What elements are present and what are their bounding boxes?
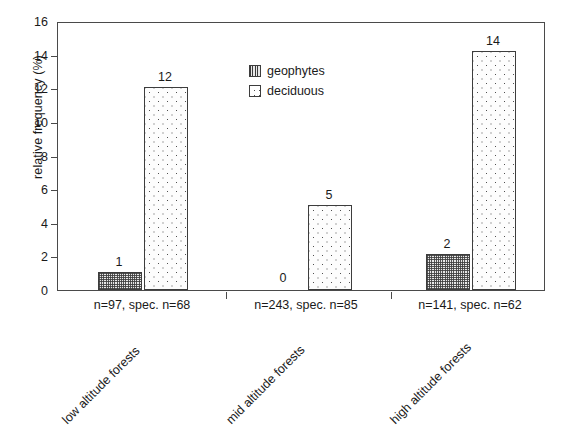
group-sample-size-label: n=141, spec. n=62 — [380, 299, 560, 312]
group-sample-size-label: n=97, spec. n=68 — [52, 299, 232, 312]
dotted-swatch-icon — [249, 85, 261, 97]
bar-value-label: 0 — [261, 272, 305, 285]
y-tick-label: 14 — [8, 49, 48, 62]
y-tick-label: 12 — [8, 83, 48, 96]
bar-value-label: 14 — [471, 35, 515, 48]
y-tick-label: 6 — [8, 184, 48, 197]
bar-deciduous-1 — [144, 87, 188, 290]
legend-label-geophytes: geophytes — [267, 65, 325, 78]
bar-deciduous-2 — [308, 205, 352, 290]
legend-label-deciduous: deciduous — [267, 85, 324, 98]
bar-value-label: 5 — [307, 189, 351, 202]
bar-deciduous-3 — [472, 51, 516, 290]
category-label-1: low altitude forests — [60, 344, 142, 426]
y-tick-label: 4 — [8, 218, 48, 231]
bar-value-label: 12 — [143, 71, 187, 84]
bar-value-label: 1 — [97, 256, 141, 269]
crosshatch-swatch-icon — [249, 65, 261, 77]
category-label-3: high altitude forests — [388, 341, 473, 426]
bar-geophytes-3 — [426, 254, 470, 290]
bar-geophytes-1 — [98, 272, 142, 290]
group-sample-size-label: n=243, spec. n=85 — [216, 299, 396, 312]
y-tick-label: 10 — [8, 117, 48, 130]
y-tick-label: 16 — [8, 16, 48, 29]
category-label-2: mid altitude forests — [224, 343, 307, 426]
chart-legend: geophytes deciduous — [249, 62, 325, 102]
bar-chart: relative frequency (%) 0246810121416 112… — [0, 0, 566, 430]
y-tick-label: 0 — [8, 285, 48, 298]
y-tick-label: 2 — [8, 251, 48, 264]
legend-item-geophytes: geophytes — [249, 62, 325, 80]
x-group-separator-tick — [226, 292, 227, 299]
bar-value-label: 2 — [425, 238, 469, 251]
legend-item-deciduous: deciduous — [249, 82, 325, 100]
y-tick-label: 8 — [8, 150, 48, 163]
x-group-separator-tick — [391, 292, 392, 299]
